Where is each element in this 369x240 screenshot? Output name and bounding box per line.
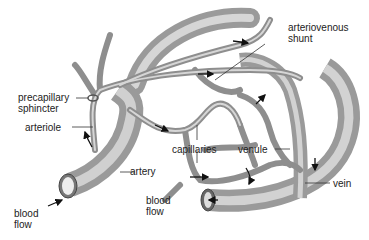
label-arteriole: arteriole (25, 122, 61, 133)
label-line: blood (14, 208, 38, 219)
label-line: flow (146, 206, 170, 217)
label-capillaries: capillaries (172, 144, 216, 155)
label-vein: vein (333, 178, 351, 189)
label-line: arteriovenous (288, 22, 349, 33)
label-arteriovenous-shunt: arteriovenous shunt (288, 22, 349, 44)
label-line: flow (14, 219, 38, 230)
label-line: sphincter (18, 103, 69, 114)
label-line: shunt (288, 33, 349, 44)
label-blood-flow-center: blood flow (146, 195, 170, 217)
label-line: blood (146, 195, 170, 206)
label-blood-flow-left: blood flow (14, 208, 38, 230)
label-line: precapillary (18, 92, 69, 103)
label-precapillary-sphincter: precapillary sphincter (18, 92, 69, 114)
label-artery: artery (130, 166, 156, 177)
label-venule: venule (238, 144, 267, 155)
